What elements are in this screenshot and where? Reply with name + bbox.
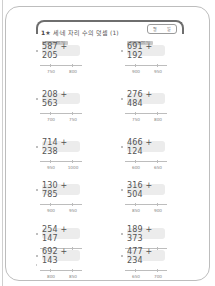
- addition-expression: 316 + 504: [127, 184, 165, 195]
- tick-left: [135, 160, 136, 163]
- tick-right: [72, 64, 73, 67]
- addition-expression: 714 + 238: [42, 141, 80, 152]
- bullet-icon: [36, 146, 38, 148]
- addition-expression: 587 + 205: [42, 45, 80, 56]
- problem-item: 받아올림이 한 번 있는 691 + 192 900 950: [125, 41, 195, 81]
- number-line-left-label: 950: [47, 165, 55, 170]
- page-marker: [36, 264, 37, 266]
- tick-right: [72, 112, 73, 115]
- bullet-icon: [121, 98, 123, 100]
- tick-right: [72, 269, 73, 272]
- problem-item: 316 + 504 850 900: [125, 180, 195, 220]
- number-line-right-label: 950: [69, 208, 77, 213]
- tick-right: [72, 203, 73, 206]
- problem-item: 208 + 563 700 750: [40, 89, 110, 129]
- number-line[interactable]: [40, 204, 82, 205]
- title-marker: ★: [45, 29, 50, 36]
- number-line[interactable]: [125, 270, 167, 271]
- tick-right: [157, 203, 158, 206]
- addition-expression: 276 + 484: [127, 93, 165, 104]
- worksheet-title: 1★ 세·네 자리 수의 덧셈 (1): [41, 28, 119, 37]
- tick-left: [50, 112, 51, 115]
- number-line[interactable]: [125, 204, 167, 205]
- number-line-left-label: 850: [132, 208, 140, 213]
- tick-left: [50, 64, 51, 67]
- number-line[interactable]: [125, 65, 167, 66]
- number-line-left-label: 750: [47, 69, 55, 74]
- date-month-label: 월: [153, 26, 157, 32]
- number-line-left-label: 800: [47, 274, 55, 279]
- number-line[interactable]: [40, 65, 82, 66]
- bullet-icon: [36, 189, 38, 191]
- number-line-left-label: 900: [132, 69, 140, 74]
- bullet-icon: [121, 233, 123, 235]
- page-edge-line: [2, 0, 3, 286]
- tick-right: [157, 112, 158, 115]
- bullet-icon: [121, 50, 123, 52]
- tick-right: [157, 160, 158, 163]
- bullet-icon: [36, 50, 38, 52]
- tick-right: [72, 160, 73, 163]
- number-line-left-label: 900: [47, 208, 55, 213]
- number-line[interactable]: [125, 161, 167, 162]
- number-line-right-label: 800: [69, 69, 77, 74]
- addition-expression: 189 + 373: [127, 228, 165, 239]
- number-line[interactable]: [125, 113, 167, 114]
- addition-expression: 692 + 143: [42, 250, 80, 261]
- problem-item: 받아올림이 한 번 있는 587 + 205 750 800: [40, 41, 110, 81]
- date-box[interactable]: 월 일: [147, 24, 177, 34]
- problem-item: 276 + 484 750 800: [125, 89, 195, 129]
- bullet-icon: [121, 146, 123, 148]
- tick-left: [50, 269, 51, 272]
- problem-item: 466 + 124 600 650: [125, 137, 195, 177]
- tick-right: [157, 269, 158, 272]
- problem-item: 477 + 234 650 700: [125, 246, 195, 286]
- number-line-left-label: 700: [47, 117, 55, 122]
- date-day-label: 일: [167, 26, 171, 32]
- number-line-right-label: 800: [154, 117, 162, 122]
- addition-expression: 254 + 147: [42, 228, 80, 239]
- number-line[interactable]: [40, 113, 82, 114]
- number-line-right-label: 900: [154, 208, 162, 213]
- number-line-right-label: 750: [69, 117, 77, 122]
- addition-expression: 208 + 563: [42, 93, 80, 104]
- tick-left: [50, 160, 51, 163]
- bullet-icon: [121, 255, 123, 257]
- bullet-icon: [36, 255, 38, 257]
- tick-left: [135, 64, 136, 67]
- bullet-icon: [121, 189, 123, 191]
- addition-expression: 691 + 192: [127, 45, 165, 56]
- number-line-left-label: 750: [132, 117, 140, 122]
- tick-left: [135, 203, 136, 206]
- number-line-right-label: 700: [154, 274, 162, 279]
- tick-left: [50, 203, 51, 206]
- number-line-right-label: 650: [154, 165, 162, 170]
- title-text: 세·네 자리 수의 덧셈 (1): [53, 29, 119, 36]
- tick-left: [135, 112, 136, 115]
- number-line[interactable]: [40, 161, 82, 162]
- bullet-icon: [36, 98, 38, 100]
- bullet-icon: [36, 233, 38, 235]
- number-line-right-label: 1000: [68, 165, 79, 170]
- problem-item: 714 + 238 950 1000: [40, 137, 110, 177]
- tick-left: [135, 269, 136, 272]
- problem-item: 692 + 143 800 850: [40, 246, 110, 286]
- number-line[interactable]: [40, 270, 82, 271]
- number-line-left-label: 600: [132, 165, 140, 170]
- number-line-right-label: 950: [154, 69, 162, 74]
- addition-expression: 130 + 785: [42, 184, 80, 195]
- number-line-right-label: 850: [69, 274, 77, 279]
- tick-right: [157, 64, 158, 67]
- addition-expression: 466 + 124: [127, 141, 165, 152]
- number-line-left-label: 650: [132, 274, 140, 279]
- addition-expression: 477 + 234: [127, 250, 165, 261]
- problem-item: 130 + 785 900 950: [40, 180, 110, 220]
